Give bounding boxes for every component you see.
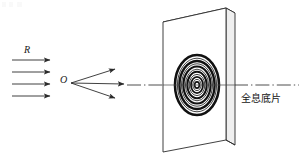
reference-beam-arrows (12, 60, 50, 96)
object-point-label: O (60, 74, 67, 85)
holographic-plate (163, 8, 235, 152)
plate-side-face (226, 8, 235, 145)
object-ray-lower (71, 83, 115, 98)
object-ray-middle (71, 83, 124, 84)
optics-diagram-svg (0, 0, 299, 161)
figure-canvas: R O 全息底片 (0, 0, 299, 161)
object-ray-upper (71, 69, 115, 83)
holographic-plate-label: 全息底片 (241, 90, 281, 105)
object-rays (71, 69, 124, 98)
reference-beam-label: R (24, 44, 30, 55)
